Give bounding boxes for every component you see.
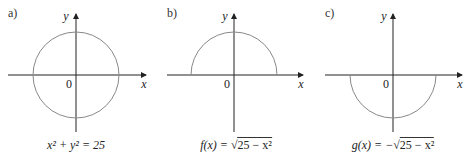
y-axis-label: y <box>381 9 386 24</box>
equation-lhs: f(x) = <box>200 138 231 152</box>
origin-label: 0 <box>383 77 389 92</box>
x-axis-label: x <box>457 77 462 92</box>
origin-label: 0 <box>66 77 72 92</box>
equation-caption-c: g(x) = −√25 − x² <box>352 138 434 153</box>
panel-b-graph <box>167 14 303 132</box>
y-axis-label: y <box>222 9 227 24</box>
panel-c-graph <box>325 14 462 132</box>
radicand: 25 − x² <box>237 137 271 152</box>
panel-c-label: c) <box>325 6 334 21</box>
origin-label: 0 <box>224 77 230 92</box>
panel-b-label: b) <box>167 6 177 21</box>
y-axis-label: y <box>63 9 68 24</box>
equation-text: x² + y² = 25 <box>47 138 105 152</box>
panel-a-graph <box>8 14 146 132</box>
x-axis-label: x <box>298 77 303 92</box>
equation-caption-b: f(x) = √25 − x² <box>200 138 272 153</box>
panel-a-label: a) <box>8 6 17 21</box>
radicand: 25 − x² <box>400 137 434 152</box>
equation-caption-a: x² + y² = 25 <box>47 138 105 153</box>
equation-lhs: g(x) = − <box>352 138 394 152</box>
x-axis-label: x <box>141 77 146 92</box>
